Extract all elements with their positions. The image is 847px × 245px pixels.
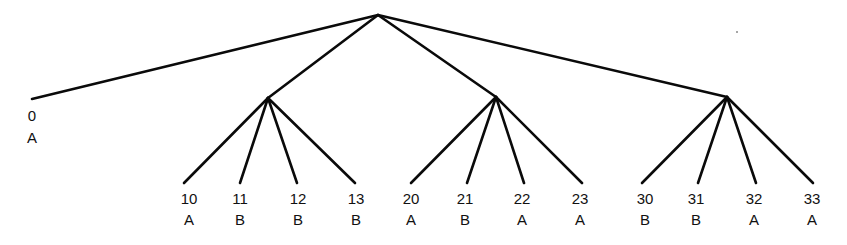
leaf-class-label: A xyxy=(174,211,204,228)
leaf-id-label: 12 xyxy=(283,190,313,207)
edge-n1-leaf-13 xyxy=(268,98,355,183)
leaf-class-label: B xyxy=(450,211,480,228)
edge-n1-leaf-10 xyxy=(184,98,268,183)
edge-root-leaf-0 xyxy=(32,15,378,99)
leaf-id-label: 10 xyxy=(174,190,204,207)
leaf-id-label: 23 xyxy=(565,190,595,207)
leaf-class-label: A xyxy=(797,211,827,228)
stray-dot xyxy=(736,31,738,33)
leaf-class-label: A xyxy=(565,211,595,228)
leaf-class-label: B xyxy=(630,211,660,228)
leaf-class-label: A xyxy=(507,211,537,228)
leaf-id-label: 21 xyxy=(450,190,480,207)
leaf-id-label: 31 xyxy=(681,190,711,207)
leaf-class-label: A xyxy=(17,129,47,146)
tree-edges xyxy=(32,15,813,183)
leaf-id-label: 30 xyxy=(630,190,660,207)
leaf-class-label: B xyxy=(225,211,255,228)
leaf-id-label: 13 xyxy=(341,190,371,207)
tree-diagram xyxy=(0,0,847,245)
edge-n3-leaf-30 xyxy=(642,97,727,183)
edge-n3-leaf-33 xyxy=(727,97,813,183)
edge-root-n3 xyxy=(378,15,727,97)
leaf-id-label: 11 xyxy=(225,190,255,207)
leaf-id-label: 32 xyxy=(739,190,769,207)
leaf-class-label: B xyxy=(341,211,371,228)
edge-root-n2 xyxy=(378,15,496,97)
leaf-id-label: 20 xyxy=(396,190,426,207)
leaf-id-label: 33 xyxy=(797,190,827,207)
leaf-class-label: B xyxy=(681,211,711,228)
edge-n2-leaf-20 xyxy=(411,97,496,183)
leaf-class-label: A xyxy=(396,211,426,228)
leaf-class-label: A xyxy=(739,211,769,228)
leaf-class-label: B xyxy=(283,211,313,228)
leaf-id-label: 0 xyxy=(17,107,47,124)
leaf-id-label: 22 xyxy=(507,190,537,207)
